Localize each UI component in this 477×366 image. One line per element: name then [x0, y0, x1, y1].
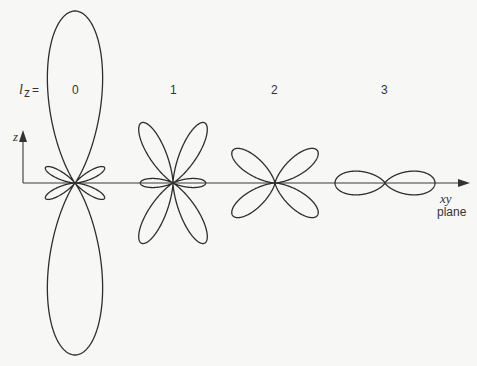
xy-axis-arrowhead-icon: [458, 179, 470, 187]
lz-value-2: 2: [271, 83, 278, 97]
lz-value-1: 1: [170, 83, 177, 97]
lz-value-0: 0: [72, 83, 79, 97]
lz-label-equals: =: [32, 83, 39, 97]
z-axis-label: z: [12, 129, 18, 144]
z-axis-arrowhead-icon: [19, 130, 27, 142]
xy-axis-label: xy: [439, 191, 452, 206]
plane-label: plane: [437, 205, 467, 219]
lz-row-label: l z =: [19, 82, 39, 100]
lz-label-subscript: z: [24, 86, 30, 100]
lz-label-l: l: [19, 82, 23, 97]
angular-distribution-diagram: z xy plane l z = 0 1 2 3: [0, 0, 477, 366]
lz-value-3: 3: [381, 83, 388, 97]
